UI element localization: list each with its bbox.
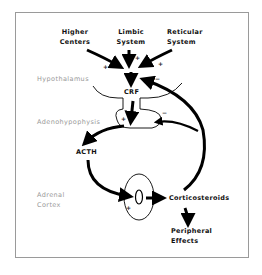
sign-hypothalamus-minus: − <box>155 75 160 82</box>
acth-to-adrenal-arrow <box>88 160 128 196</box>
sign-adrenal-plus: + <box>126 204 131 211</box>
pituitary-to-acth-arrow <box>86 126 124 142</box>
reticular-line1: Reticular <box>167 27 203 37</box>
node-corticosteroids: Corticosteroids <box>169 193 229 203</box>
higher-centers-line2: Centers <box>55 37 95 47</box>
sign-pituitary-minus: − <box>162 109 167 116</box>
adrenal-line1: Adrenal <box>37 190 65 200</box>
limbic-line1: Limbic <box>111 27 151 37</box>
node-acth: ACTH <box>76 147 97 157</box>
region-label-adenohypophysis: Adenohypophysis <box>37 117 100 127</box>
higher-centers-line1: Higher <box>55 27 95 37</box>
region-label-adrenal-cortex: Adrenal Cortex <box>37 190 65 210</box>
adrenal-line2: Cortex <box>37 200 65 210</box>
input-label-higher-centers: Higher Centers <box>55 27 95 47</box>
limbic-line2: System <box>111 37 151 47</box>
sign-higher-plus: + <box>103 63 108 70</box>
region-label-hypothalamus: Hypothalamus <box>37 74 89 84</box>
sign-pituitary-plus: + <box>121 115 126 122</box>
peripheral-line1: Peripheral <box>171 226 212 236</box>
sign-reticular-plus: + <box>158 60 163 67</box>
input-label-limbic-system: Limbic System <box>111 27 151 47</box>
feedback-to-hypothalamus-arrow <box>145 80 204 190</box>
corticosteroids-to-peripheral-arrow <box>185 208 188 222</box>
peripheral-line2: Effects <box>171 236 212 246</box>
reticular-line2: System <box>167 37 203 47</box>
adrenal-medulla-shape <box>136 190 143 204</box>
crf-to-pituitary-arrow <box>131 101 133 120</box>
input-label-reticular-system: Reticular System <box>167 27 203 47</box>
node-peripheral-effects: Peripheral Effects <box>171 226 212 246</box>
feedback-to-pituitary-arrow <box>157 121 198 131</box>
node-crf: CRF <box>124 87 139 97</box>
sign-limbic-plus: + <box>135 54 140 61</box>
